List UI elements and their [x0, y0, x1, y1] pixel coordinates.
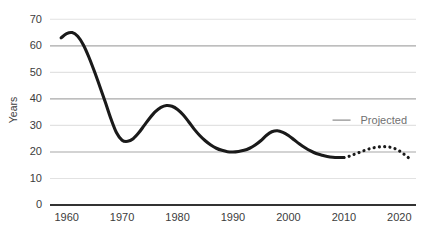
- projected-label: Projected: [361, 114, 407, 126]
- series-line-historical: [61, 32, 344, 157]
- y-tick-label-0: 0: [36, 198, 42, 210]
- x-tick-label-2010: 2010: [332, 211, 356, 223]
- y-tick-label-20: 20: [30, 145, 42, 157]
- chart-container: 010203040506070 196019701980199020002010…: [0, 0, 441, 241]
- x-tick-label-1970: 1970: [110, 211, 134, 223]
- x-tick-label-2000: 2000: [276, 211, 300, 223]
- data-series: [61, 32, 410, 159]
- y-axis-tick-labels: 010203040506070: [30, 13, 42, 211]
- y-tick-label-60: 60: [30, 39, 42, 51]
- series-line-projected: [344, 147, 411, 160]
- y-tick-label-50: 50: [30, 66, 42, 78]
- y-tick-label-10: 10: [30, 172, 42, 184]
- gridlines: [50, 19, 416, 205]
- x-tick-label-2020: 2020: [387, 211, 411, 223]
- y-axis-title: Years: [7, 97, 19, 123]
- x-tick-label-1990: 1990: [221, 211, 245, 223]
- x-tick-label-1960: 1960: [54, 211, 78, 223]
- y-tick-label-30: 30: [30, 119, 42, 131]
- projected-annotation: Projected: [333, 114, 407, 126]
- y-tick-label-40: 40: [30, 92, 42, 104]
- y-axis-title-text: Years: [7, 97, 19, 123]
- y-tick-label-70: 70: [30, 13, 42, 25]
- x-axis-tick-labels: 1960197019801990200020102020: [54, 211, 411, 223]
- x-tick-label-1980: 1980: [165, 211, 189, 223]
- line-chart: 010203040506070 196019701980199020002010…: [0, 0, 441, 241]
